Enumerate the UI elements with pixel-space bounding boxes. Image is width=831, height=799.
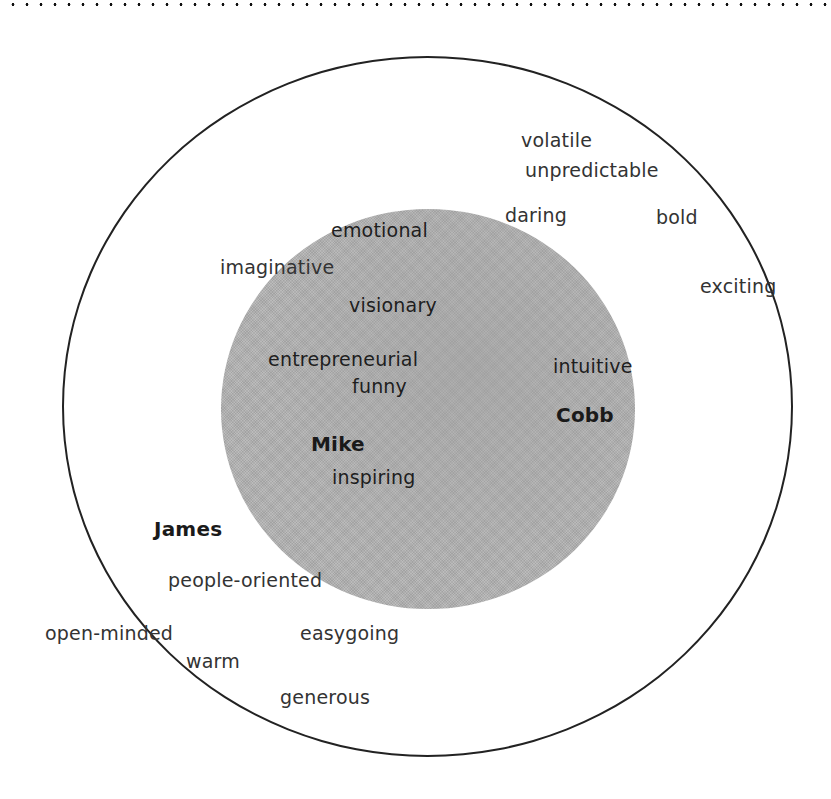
person-name-cobb: Cobb <box>556 405 614 425</box>
dotted-rule <box>6 3 831 6</box>
trait-open-minded: open-minded <box>45 624 173 643</box>
trait-generous: generous <box>280 688 370 707</box>
trait-inspiring: inspiring <box>332 468 416 487</box>
person-name-mike: Mike <box>311 434 365 454</box>
trait-volatile: volatile <box>521 131 592 150</box>
trait-unpredictable: unpredictable <box>525 161 659 180</box>
trait-emotional: emotional <box>331 221 428 240</box>
trait-daring: daring <box>505 206 567 225</box>
trait-easygoing: easygoing <box>300 624 399 643</box>
trait-people-oriented: people-oriented <box>168 571 322 590</box>
trait-warm: warm <box>186 652 240 671</box>
trait-bold: bold <box>656 208 698 227</box>
person-name-james: James <box>154 519 222 539</box>
trait-imaginative: imaginative <box>220 258 334 277</box>
trait-exciting: exciting <box>700 277 776 296</box>
trait-funny: funny <box>352 377 407 396</box>
trait-entrepreneurial: entrepreneurial <box>268 350 418 369</box>
trait-intuitive: intuitive <box>553 357 633 376</box>
trait-visionary: visionary <box>349 296 437 315</box>
